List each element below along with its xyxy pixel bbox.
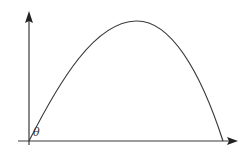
angle-label: θ (33, 126, 40, 139)
trajectory-curve (29, 21, 223, 141)
diagram: θ (0, 0, 250, 154)
